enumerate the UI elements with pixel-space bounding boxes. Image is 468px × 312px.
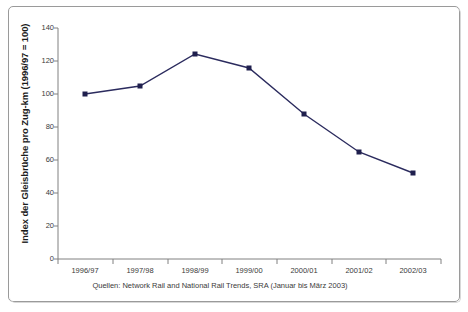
- chart-canvas: Index der Gleisbrüche pro Zug-km (1996/9…: [0, 0, 468, 312]
- x-tick-label-2001-02: 2001/02: [334, 266, 384, 275]
- x-tick-label-2000-01: 2000/01: [279, 266, 329, 275]
- data-point-1997-98: [138, 84, 143, 89]
- data-line: [85, 54, 413, 173]
- data-point-1999-00: [247, 66, 252, 71]
- x-tick-label-1996-97: 1996/97: [60, 266, 110, 275]
- data-point-1998-99: [193, 52, 198, 57]
- data-markers: [83, 52, 416, 176]
- chart-screenshot: Index der Gleisbrüche pro Zug-km (1996/9…: [0, 0, 468, 312]
- source-note: Quellen: Network Rail and National Rail …: [0, 281, 440, 290]
- data-point-1996-97: [83, 92, 88, 97]
- x-tick-label-1998-99: 1998/99: [170, 266, 220, 275]
- data-point-2000-01: [302, 112, 307, 117]
- data-point-2001-02: [357, 150, 362, 155]
- x-axis-ticks: [58, 259, 441, 264]
- data-point-2002-03: [411, 171, 416, 176]
- y-axis-ticks: [54, 28, 58, 259]
- x-tick-label-2002-03: 2002/03: [388, 266, 438, 275]
- x-tick-label-1997-98: 1997/98: [115, 266, 165, 275]
- x-tick-label-1999-00: 1999/00: [224, 266, 274, 275]
